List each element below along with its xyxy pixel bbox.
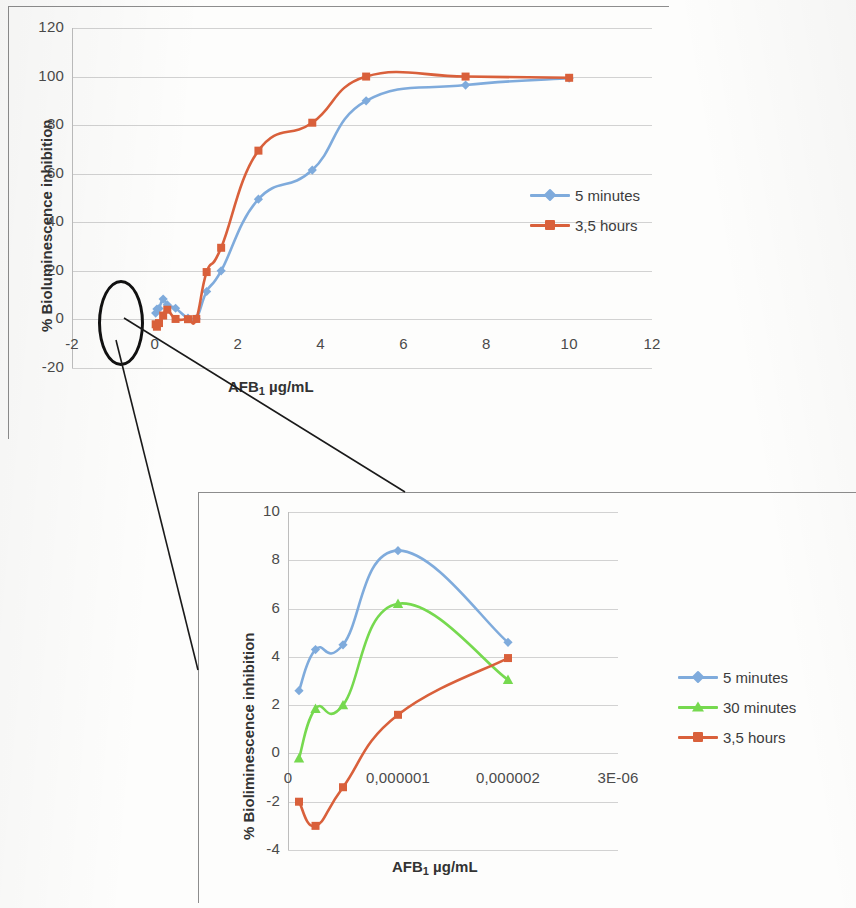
x-tick-label: 0,000001 bbox=[353, 769, 443, 786]
bottom-chart-plot-area bbox=[288, 512, 618, 850]
legend-marker-diamond-icon bbox=[530, 188, 570, 202]
y-axis-line bbox=[288, 512, 289, 850]
bottom-chart-legend: 5 minutes30 minutes3,5 hours bbox=[678, 662, 796, 752]
gridline-horizontal bbox=[288, 512, 618, 513]
legend-marker-square-icon bbox=[678, 730, 718, 744]
legend-label: 3,5 hours bbox=[575, 217, 638, 234]
magnified-region-ellipse bbox=[98, 280, 144, 366]
y-tick-label: -20 bbox=[20, 358, 64, 375]
legend-label: 30 minutes bbox=[723, 699, 796, 716]
y-axis-line bbox=[72, 28, 73, 368]
bottom-chart-x-axis-title: AFB1 µg/mL bbox=[392, 858, 478, 875]
top-chart-x-axis-title: AFB1 µg/mL bbox=[228, 378, 314, 395]
x-tick-label: 6 bbox=[358, 335, 448, 352]
legend-label: 5 minutes bbox=[723, 669, 788, 686]
x-tick-label: 12 bbox=[607, 335, 697, 352]
gridline-horizontal bbox=[288, 705, 618, 706]
gridline-horizontal bbox=[72, 271, 652, 272]
top-chart-y-axis-title: % Bioluminescence inhibition bbox=[38, 119, 55, 332]
x-tick-label: 3E-06 bbox=[573, 769, 663, 786]
legend-marker-square-icon bbox=[530, 218, 570, 232]
x-tick-label: 4 bbox=[276, 335, 366, 352]
x-tick-label: 10 bbox=[524, 335, 614, 352]
bottom-chart-y-axis-title: % Bioliminescence inhibition bbox=[240, 632, 257, 840]
x-tick-label: 0,000002 bbox=[463, 769, 553, 786]
y-tick-label: 8 bbox=[236, 550, 280, 567]
y-tick-label: 10 bbox=[236, 502, 280, 519]
legend-item[interactable]: 3,5 hours bbox=[530, 210, 640, 240]
gridline-horizontal bbox=[288, 802, 618, 803]
gridline-horizontal bbox=[72, 77, 652, 78]
legend-item[interactable]: 5 minutes bbox=[530, 180, 640, 210]
y-tick-label: -4 bbox=[236, 840, 280, 857]
gridline-horizontal bbox=[288, 609, 618, 610]
gridline-horizontal bbox=[72, 125, 652, 126]
legend-label: 3,5 hours bbox=[723, 729, 786, 746]
gridline-horizontal bbox=[288, 753, 618, 754]
figure-page: -20020406080100120 -2024681012 % Biolumi… bbox=[0, 0, 856, 908]
legend-label: 5 minutes bbox=[575, 187, 640, 204]
x-tick-label: 8 bbox=[441, 335, 531, 352]
x-tick-label: 2 bbox=[193, 335, 283, 352]
legend-marker-diamond-icon bbox=[678, 670, 718, 684]
gridline-horizontal bbox=[72, 319, 652, 320]
top-chart-legend: 5 minutes3,5 hours bbox=[530, 180, 640, 240]
legend-item[interactable]: 30 minutes bbox=[678, 692, 796, 722]
legend-item[interactable]: 3,5 hours bbox=[678, 722, 796, 752]
legend-item[interactable]: 5 minutes bbox=[678, 662, 796, 692]
y-tick-label: 6 bbox=[236, 599, 280, 616]
gridline-horizontal bbox=[72, 368, 652, 369]
y-tick-label: 100 bbox=[20, 67, 64, 84]
gridline-horizontal bbox=[288, 657, 618, 658]
gridline-horizontal bbox=[288, 850, 618, 851]
legend-marker-triangle-icon bbox=[678, 700, 718, 714]
gridline-horizontal bbox=[72, 174, 652, 175]
y-tick-label: 120 bbox=[20, 18, 64, 35]
gridline-horizontal bbox=[72, 28, 652, 29]
gridline-horizontal bbox=[288, 560, 618, 561]
